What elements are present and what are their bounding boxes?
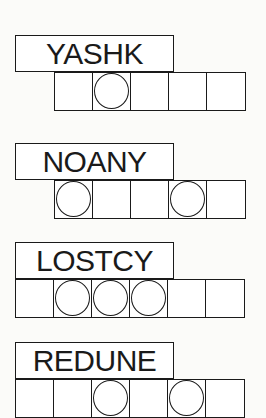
answer-letter-box[interactable] (54, 180, 94, 219)
answer-letter-box[interactable] (91, 279, 131, 318)
answer-letter-box[interactable] (205, 279, 245, 318)
scrambled-word: REDUNE (16, 343, 173, 378)
answer-letter-box[interactable] (205, 379, 245, 418)
answer-letter-box[interactable] (15, 279, 55, 318)
answer-boxes (54, 72, 244, 111)
scrambled-word-box: LOSTCY (15, 242, 174, 279)
circled-letter-marker (131, 280, 166, 316)
answer-letter-box[interactable] (130, 72, 170, 111)
answer-letter-box[interactable] (168, 180, 208, 219)
answer-boxes (15, 279, 243, 318)
circled-letter-marker (170, 181, 205, 217)
circled-letter-marker (94, 73, 129, 109)
circled-letter-marker (93, 380, 128, 416)
answer-letter-box[interactable] (53, 279, 93, 318)
answer-letter-box[interactable] (129, 279, 169, 318)
answer-letter-box[interactable] (206, 72, 246, 111)
scrambled-word: YASHK (16, 36, 173, 71)
scrambled-word-box: YASHK (15, 35, 174, 72)
circled-letter-marker (169, 380, 204, 416)
answer-boxes (54, 180, 244, 219)
circled-letter-marker (93, 280, 128, 316)
answer-letter-box[interactable] (167, 279, 207, 318)
answer-letter-box[interactable] (206, 180, 246, 219)
scrambled-word-box: NOANY (15, 143, 174, 180)
answer-letter-box[interactable] (92, 72, 132, 111)
answer-letter-box[interactable] (15, 379, 55, 418)
answer-letter-box[interactable] (168, 72, 208, 111)
scrambled-word-box: REDUNE (15, 342, 174, 379)
answer-letter-box[interactable] (53, 379, 93, 418)
circled-letter-marker (56, 181, 91, 217)
answer-letter-box[interactable] (54, 72, 94, 111)
circled-letter-marker (55, 280, 90, 316)
answer-letter-box[interactable] (129, 379, 169, 418)
scrambled-word: NOANY (16, 144, 173, 179)
answer-letter-box[interactable] (130, 180, 170, 219)
answer-letter-box[interactable] (91, 379, 131, 418)
scrambled-word: LOSTCY (16, 243, 173, 278)
answer-letter-box[interactable] (92, 180, 132, 219)
answer-boxes (15, 379, 243, 418)
answer-letter-box[interactable] (167, 379, 207, 418)
